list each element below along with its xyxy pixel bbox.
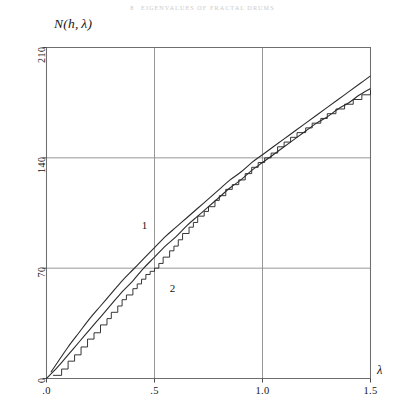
series-2 [47, 88, 371, 378]
x-tick-label: .5 [138, 385, 172, 396]
figure-eigenvalue-counting-function: 8 EIGENVALUES OF FRACTAL DRUMS N(h, λ) λ… [0, 0, 405, 419]
series-1 [51, 76, 371, 372]
y-tick-label: 140 [35, 156, 46, 186]
series-staircase [53, 90, 371, 375]
plot-canvas [0, 0, 405, 419]
axes-box [47, 48, 371, 379]
y-tick-label: 210 [35, 46, 46, 76]
x-tick-label: .0 [30, 385, 64, 396]
x-tick-label: 1.5 [354, 385, 388, 396]
axis-tick-marks [43, 48, 371, 383]
curve-label-2: 2 [170, 282, 176, 294]
gridlines [47, 48, 371, 379]
x-tick-label: 1.0 [246, 385, 280, 396]
data-series-layer [47, 76, 371, 379]
y-tick-label: 70 [35, 267, 46, 297]
curve-label-1: 1 [142, 219, 148, 231]
plot-frame [47, 48, 371, 379]
